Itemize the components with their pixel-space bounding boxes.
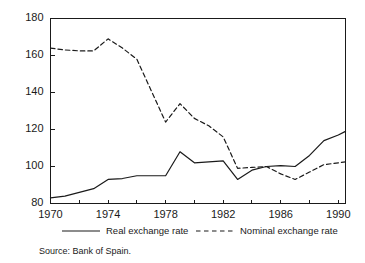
y-axis-tick-marks <box>51 19 55 204</box>
exchange-rate-line-chart: 80100120140160180 1970197419781982198619… <box>0 0 365 263</box>
x-tick-label: 1974 <box>96 208 120 220</box>
x-tick-label: 1978 <box>153 208 177 220</box>
y-tick-label: 180 <box>25 11 43 23</box>
y-tick-label: 160 <box>25 48 43 60</box>
chart-legend: Real exchange rate Nominal exchange rate <box>62 225 338 236</box>
y-tick-label: 140 <box>25 85 43 97</box>
x-tick-label: 1970 <box>38 208 62 220</box>
source-note: Source: Bank of Spain. <box>39 246 131 256</box>
chart-figure: 80100120140160180 1970197419781982198619… <box>0 0 365 263</box>
legend-label-real-exchange-rate: Real exchange rate <box>106 225 188 236</box>
x-tick-label: 1990 <box>326 208 350 220</box>
x-axis-tick-marks <box>51 200 339 204</box>
y-axis-tick-labels: 80100120140160180 <box>25 11 43 208</box>
legend-label-nominal-exchange-rate: Nominal exchange rate <box>240 225 338 236</box>
y-tick-label: 100 <box>25 159 43 171</box>
x-tick-label: 1986 <box>269 208 293 220</box>
series-line-real-exchange-rate <box>51 131 346 198</box>
y-tick-label: 120 <box>25 122 43 134</box>
x-tick-label: 1982 <box>211 208 235 220</box>
series-line-nominal-exchange-rate <box>51 39 346 180</box>
x-axis-tick-labels: 197019741978198219861990 <box>38 208 350 220</box>
